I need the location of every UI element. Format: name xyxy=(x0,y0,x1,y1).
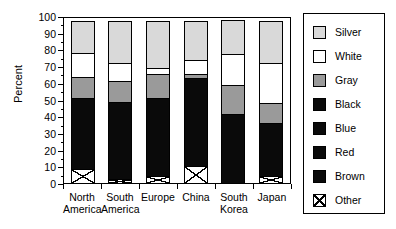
bar-segment-black[interactable] xyxy=(221,114,245,184)
bar-segment-white[interactable] xyxy=(71,53,95,78)
bar-slot xyxy=(252,18,290,183)
bar-segment-white[interactable] xyxy=(221,54,245,86)
bar-segment-white[interactable] xyxy=(184,60,208,75)
y-axis-tick-labels: 0102030405060708090100 xyxy=(26,0,56,229)
x-tick-label-line: South xyxy=(101,191,139,203)
bar-segment-black[interactable] xyxy=(108,102,132,180)
bar-slot xyxy=(215,18,253,183)
plot-area xyxy=(63,17,291,184)
bar-segment-silver[interactable] xyxy=(108,21,132,64)
x-tick-mark xyxy=(177,184,178,189)
bar-segment-other[interactable] xyxy=(71,169,95,184)
bar-segment-gray[interactable] xyxy=(221,85,245,115)
legend: SilverWhiteGrayBlackBlueRedBrownOther xyxy=(303,13,385,214)
legend-swatch-brown-icon xyxy=(313,170,326,183)
y-tick-label: 60 xyxy=(26,79,56,89)
y-tick-label: 30 xyxy=(26,129,56,139)
bar-segment-gray[interactable] xyxy=(259,103,283,125)
x-tick-label-line: Korea xyxy=(215,203,253,215)
bar-segment-silver[interactable] xyxy=(259,21,283,64)
stacked-bar[interactable] xyxy=(221,18,245,183)
stacked-bar[interactable] xyxy=(184,18,208,183)
bar-segment-black[interactable] xyxy=(146,98,170,176)
x-axis-tick-marks xyxy=(63,184,291,190)
legend-item-blue[interactable]: Blue xyxy=(304,116,384,140)
y-tick-label: 80 xyxy=(26,45,56,55)
legend-item-other[interactable]: Other xyxy=(304,188,384,212)
legend-label: Blue xyxy=(335,123,356,134)
legend-label: Gray xyxy=(335,75,358,86)
legend-item-black[interactable]: Black xyxy=(304,92,384,116)
legend-swatch-blue-icon xyxy=(313,122,326,135)
bar-segment-silver[interactable] xyxy=(221,20,245,55)
legend-swatch-silver-icon xyxy=(313,26,326,39)
x-tick-mark xyxy=(215,184,216,189)
x-tick-mark xyxy=(139,184,140,189)
bar-segment-white[interactable] xyxy=(259,63,283,103)
bar-segment-silver[interactable] xyxy=(146,21,170,69)
y-tick-label: 20 xyxy=(26,146,56,156)
bar-segment-gray[interactable] xyxy=(71,77,95,99)
stacked-bar[interactable] xyxy=(259,18,283,183)
bar-segment-silver[interactable] xyxy=(71,21,95,54)
y-tick-label: 50 xyxy=(26,96,56,106)
x-tick-label-line: America xyxy=(63,203,101,215)
stacked-bar[interactable] xyxy=(146,18,170,183)
stacked-bar-chart: Percent 0102030405060708090100 NorthAmer… xyxy=(0,0,396,229)
y-tick-label: 90 xyxy=(26,29,56,39)
bar-slot xyxy=(64,18,102,183)
x-tick-label-japan: Japan xyxy=(253,191,291,225)
legend-item-white[interactable]: White xyxy=(304,44,384,68)
bar-segment-gray[interactable] xyxy=(108,81,132,103)
legend-swatch-black-icon xyxy=(313,98,326,111)
bar-segment-silver[interactable] xyxy=(184,21,208,61)
x-tick-label-line: North xyxy=(63,191,101,203)
bar-segment-other[interactable] xyxy=(146,176,170,184)
legend-label: Brown xyxy=(335,171,365,182)
legend-swatch-other-icon xyxy=(313,194,326,207)
bar-segment-white[interactable] xyxy=(108,63,132,81)
bar-slot xyxy=(177,18,215,183)
bar-segment-black[interactable] xyxy=(184,78,208,167)
x-tick-mark xyxy=(291,184,292,189)
bar-segment-other[interactable] xyxy=(259,176,283,184)
legend-label: Other xyxy=(335,195,361,206)
x-tick-label-line: China xyxy=(177,191,215,203)
y-tick-label: 10 xyxy=(26,162,56,172)
bar-segment-gray[interactable] xyxy=(146,74,170,99)
x-tick-label-line: America xyxy=(101,203,139,215)
legend-item-brown[interactable]: Brown xyxy=(304,164,384,188)
legend-label: Silver xyxy=(335,27,361,38)
x-tick-mark xyxy=(63,184,64,189)
bar-slot xyxy=(139,18,177,183)
stacked-bar[interactable] xyxy=(71,18,95,183)
bar-segment-black[interactable] xyxy=(71,98,95,170)
y-tick-label: 0 xyxy=(26,179,56,189)
x-tick-label-china: China xyxy=(177,191,215,225)
legend-label: Black xyxy=(335,99,361,110)
x-tick-label-south-america: SouthAmerica xyxy=(101,191,139,225)
bar-group xyxy=(64,18,290,183)
legend-item-red[interactable]: Red xyxy=(304,140,384,164)
stacked-bar[interactable] xyxy=(108,18,132,183)
x-tick-label-south-korea: SouthKorea xyxy=(215,191,253,225)
x-tick-label-europe: Europe xyxy=(139,191,177,225)
x-tick-label-line: Europe xyxy=(139,191,177,203)
y-tick-label: 40 xyxy=(26,112,56,122)
x-axis-tick-labels: NorthAmericaSouthAmericaEuropeChinaSouth… xyxy=(63,191,291,225)
x-tick-label-line: Japan xyxy=(253,191,291,203)
x-tick-label-line: South xyxy=(215,191,253,203)
y-tick-label: 70 xyxy=(26,62,56,72)
bar-segment-black[interactable] xyxy=(259,123,283,176)
y-axis-title: Percent xyxy=(12,44,24,124)
x-tick-mark xyxy=(253,184,254,189)
legend-swatch-white-icon xyxy=(313,50,326,63)
legend-label: White xyxy=(335,51,362,62)
legend-label: Red xyxy=(335,147,354,158)
bar-segment-other[interactable] xyxy=(184,166,208,184)
x-tick-label-north-america: NorthAmerica xyxy=(63,191,101,225)
bar-slot xyxy=(102,18,140,183)
legend-item-gray[interactable]: Gray xyxy=(304,68,384,92)
legend-item-silver[interactable]: Silver xyxy=(304,20,384,44)
legend-swatch-gray-icon xyxy=(313,74,326,87)
